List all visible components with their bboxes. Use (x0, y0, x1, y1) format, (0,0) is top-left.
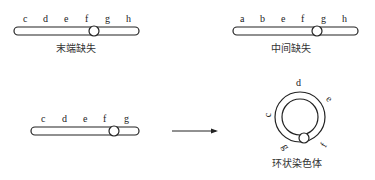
gene-label: e (281, 14, 285, 24)
gene-label: h (342, 14, 347, 24)
gene-label: f (103, 114, 106, 124)
gene-label: b (260, 14, 265, 24)
gene-label: g (105, 14, 110, 24)
caption-ring-chromosome: 环状染色体 (272, 158, 322, 170)
gene-label: d (62, 114, 67, 124)
caption-terminal-deletion: 末端缺失 (56, 43, 96, 55)
chromosome-interstitial-deletion (233, 26, 358, 36)
caption-interstitial-deletion: 中间缺失 (271, 43, 311, 55)
diagram-canvas (0, 0, 375, 180)
gene-label: a (240, 14, 244, 24)
gene-label: g (321, 14, 326, 24)
gene-label: c (23, 14, 27, 24)
arrow-icon (172, 129, 218, 134)
gene-label: g (124, 114, 129, 124)
gene-label: h (126, 14, 131, 24)
chromosome-terminal-deletion (14, 26, 139, 36)
gene-label: e (64, 14, 68, 24)
gene-label: c (263, 113, 273, 117)
gene-label: d (296, 78, 301, 88)
ring-chromosome (275, 92, 325, 143)
gene-label: f (301, 14, 304, 24)
gene-label: c (41, 114, 45, 124)
gene-label: d (43, 14, 48, 24)
chromosome-ring-source (31, 126, 139, 136)
gene-label: f (85, 14, 88, 24)
gene-label: e (83, 114, 87, 124)
